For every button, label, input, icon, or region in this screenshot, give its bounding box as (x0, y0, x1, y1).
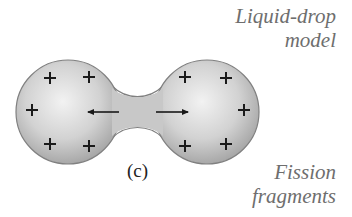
label-line: Fission (252, 160, 336, 184)
label-line: fragments (252, 184, 336, 208)
label-fission-fragments: Fission fragments (252, 160, 336, 208)
panel-label: (c) (127, 160, 148, 182)
